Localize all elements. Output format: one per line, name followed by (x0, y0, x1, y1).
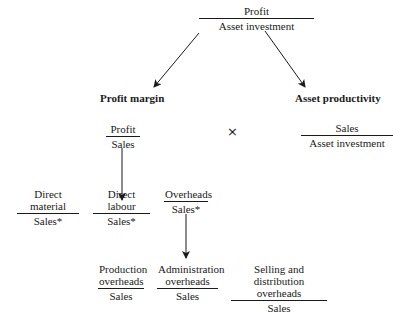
selling-distribution-overheads-numerator: Selling and distribution overheads (231, 263, 327, 300)
profit-margin-numerator: Profit (106, 123, 140, 136)
production-overheads-line2: overheads (99, 275, 144, 287)
direct-material-denominator: Sales* (17, 213, 79, 227)
administration-overheads-numerator: Administration overheads (157, 263, 218, 288)
selling-distribution-overheads-ratio: Selling and distribution overheads Sales (231, 263, 327, 313)
profit-margin-ratio: Profit Sales (106, 123, 140, 150)
selling-distribution-overheads-denominator: Sales (231, 300, 327, 313)
asset-productivity-ratio: Sales Asset investment (301, 122, 393, 149)
asset-productivity-title: Asset productivity (295, 92, 381, 104)
administration-overheads-denominator: Sales (157, 288, 218, 302)
overheads-numerator: Overheads (164, 188, 208, 201)
root-denominator: Asset investment (199, 18, 314, 32)
administration-overheads-ratio: Administration overheads Sales (157, 263, 218, 302)
selling-distribution-overheads-line2: overheads (257, 287, 302, 299)
overheads-denominator: Sales* (164, 201, 208, 215)
overheads-ratio: Overheads Sales* (164, 188, 208, 215)
direct-labour-denominator: Sales* (93, 213, 150, 227)
direct-labour-numerator: Direct labour (93, 188, 150, 213)
asset-productivity-numerator: Sales (301, 122, 393, 135)
administration-overheads-line2: overheads (165, 275, 210, 287)
arrow-root-to-profit-margin (154, 33, 199, 87)
root-ratio: Profit Asset investment (199, 5, 314, 32)
direct-material-ratio: Direct material Sales* (17, 188, 79, 227)
direct-material-numerator: Direct material (17, 188, 79, 213)
production-overheads-numerator: Production overheads (98, 263, 144, 288)
production-overheads-line1: Production (99, 263, 147, 275)
asset-productivity-denominator: Asset investment (301, 135, 393, 149)
multiply-operator: × (227, 124, 238, 139)
profit-margin-denominator: Sales (106, 136, 140, 150)
administration-overheads-line1: Administration (158, 263, 225, 275)
selling-distribution-overheads-line1: Selling and distribution (254, 263, 305, 287)
profit-margin-title: Profit margin (100, 92, 164, 104)
direct-labour-ratio: Direct labour Sales* (93, 188, 150, 227)
production-overheads-denominator: Sales (98, 288, 144, 302)
root-numerator: Profit (199, 5, 314, 18)
arrow-root-to-asset-productivity (265, 31, 305, 87)
production-overheads-ratio: Production overheads Sales (98, 263, 144, 302)
